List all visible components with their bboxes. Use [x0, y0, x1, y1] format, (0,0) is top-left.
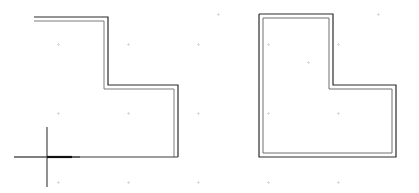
- drawing-canvas[interactable]: [0, 0, 419, 193]
- left-open-l-outline[interactable]: [34, 17, 178, 157]
- right-closed-l-outline[interactable]: [259, 14, 396, 157]
- right-outer-wall-line[interactable]: [259, 14, 396, 157]
- crosshair-cursor[interactable]: [14, 127, 80, 187]
- left-outer-wall-line[interactable]: [34, 17, 178, 157]
- drawing-svg: [0, 0, 419, 193]
- left-inner-wall-line[interactable]: [34, 21, 174, 157]
